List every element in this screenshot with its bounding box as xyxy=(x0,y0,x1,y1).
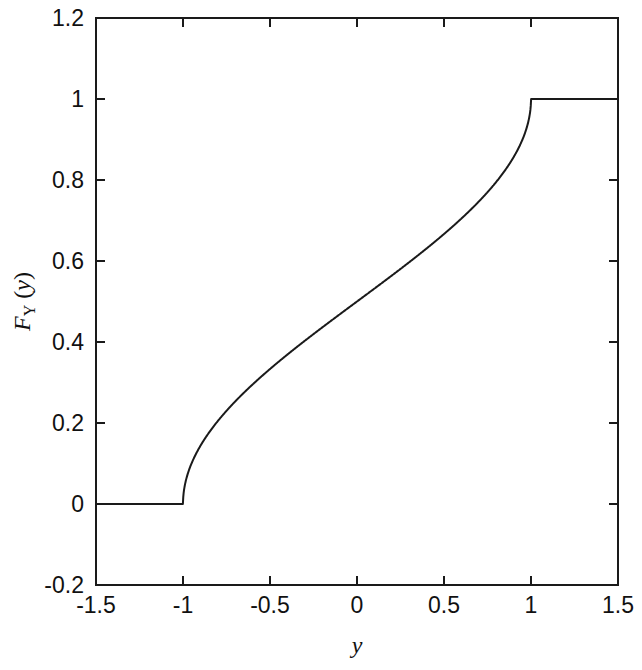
y-tick-label: -0.2 xyxy=(44,572,84,598)
y-axis-title-group: FY (y) xyxy=(9,272,38,332)
y-tick-label: 0.4 xyxy=(52,329,84,355)
cdf-plot: -1.5-1-0.500.511.5 -0.200.20.40.60.811.2… xyxy=(0,0,642,670)
y-tick-label: 0 xyxy=(71,491,84,517)
x-axis-title: y xyxy=(350,632,363,658)
x-axis-title-text: y xyxy=(350,632,363,658)
x-tick-label: -0.5 xyxy=(250,592,290,618)
y-tick-label: 0.8 xyxy=(52,167,84,193)
y-tick-label: 1.2 xyxy=(52,5,84,31)
y-tick-label: 1 xyxy=(71,86,84,112)
x-tick-label: 0.5 xyxy=(428,592,460,618)
x-tick-label: 1 xyxy=(525,592,538,618)
x-tick-label: -1 xyxy=(173,592,193,618)
y-tick-label: 0.6 xyxy=(52,248,84,274)
y-axis-title-text: FY (y) xyxy=(9,272,38,332)
figure-container: -1.5-1-0.500.511.5 -0.200.20.40.60.811.2… xyxy=(0,0,642,670)
x-tick-label: 1.5 xyxy=(602,592,634,618)
x-tick-label: 0 xyxy=(351,592,364,618)
y-tick-label: 0.2 xyxy=(52,410,84,436)
y-axis-title: FY (y) xyxy=(9,272,38,332)
